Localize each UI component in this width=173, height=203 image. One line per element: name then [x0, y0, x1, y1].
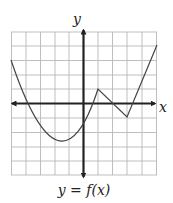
graph-caption: y = f(x): [57, 182, 111, 198]
function-graph: y x y = f(x): [0, 0, 173, 203]
x-axis-label: x: [159, 99, 167, 115]
y-axis-label: y: [72, 11, 82, 27]
